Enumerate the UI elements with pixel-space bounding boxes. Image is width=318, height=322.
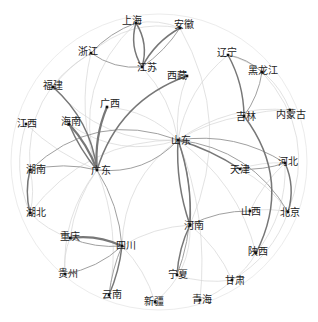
edge-zhejiang-jiangsu (91, 53, 142, 67)
node-dot (141, 66, 144, 69)
node-label: 上海 (122, 14, 142, 26)
node-label: 重庆 (60, 230, 80, 242)
node-jiangsu: 江苏 (137, 61, 157, 73)
node-jiangxi: 江西 (17, 118, 37, 129)
node-dot (135, 22, 138, 25)
node-dot (249, 210, 252, 213)
edge-zhejiang-guangdong (85, 53, 97, 170)
edge-sichuan-xinjiang (122, 246, 155, 302)
node-dot (108, 294, 111, 297)
edge-guangdong-yunnan (97, 170, 113, 295)
edge-guangdong-chongqing (70, 170, 97, 238)
edge-heilongjiang-beijing (262, 72, 299, 212)
edge-fujian-shandong (53, 87, 178, 140)
edge-henan-gansu (190, 225, 232, 280)
node-xizang: 西藏 (167, 70, 188, 81)
node-hainan: 海南 (61, 115, 81, 127)
node-dot (177, 139, 180, 142)
node-hunan: 湖南 (26, 163, 46, 175)
node-chongqing: 重庆 (60, 230, 80, 242)
node-dot (243, 115, 246, 118)
node-dot (284, 162, 287, 165)
node-label: 江苏 (137, 61, 157, 73)
edge-neimenggu-shandong (178, 109, 290, 140)
node-label: 河北 (278, 156, 298, 167)
edge-guangdong-sichuan (97, 170, 122, 246)
network-graph: 上海安徽浙江江苏辽宁黑龙江西藏福建广西吉林内蒙古海南江西山东湖南广东天津河北湖北… (0, 0, 318, 322)
node-label: 北京 (280, 206, 300, 218)
node-label: 山东 (171, 134, 191, 146)
edge-shanghai-jiangsu (134, 23, 142, 67)
node-guizhou: 贵州 (58, 267, 78, 279)
node-label: 广东 (91, 164, 111, 176)
node-dot (106, 106, 109, 109)
edge-sichuan-shandong (122, 140, 178, 246)
node-dot (186, 75, 189, 78)
node-dot (121, 245, 124, 248)
node-dot (189, 224, 192, 227)
node-label: 广西 (100, 98, 120, 109)
node-sichuan: 四川 (116, 240, 136, 251)
node-liaoning: 辽宁 (217, 46, 237, 58)
node-xinjiang: 新疆 (144, 295, 164, 307)
node-label: 河南 (184, 219, 204, 231)
node-shandong: 山东 (171, 134, 191, 146)
edge-yunnan-sichuan (109, 246, 122, 295)
node-dot (255, 252, 258, 255)
edge-zhejiang-anhui (91, 26, 180, 53)
node-label: 浙江 (78, 46, 98, 57)
node-heilongjiang: 黑龙江 (248, 64, 278, 76)
nodes-layer: 上海安徽浙江江苏辽宁黑龙江西藏福建广西吉林内蒙古海南江西山东湖南广东天津河北湖北… (17, 14, 306, 307)
node-qinghai: 青海 (192, 293, 212, 305)
node-dot (25, 123, 28, 126)
background-ring (11, 14, 307, 310)
node-label: 安徽 (174, 18, 194, 30)
edge-yunnan-sichuan (109, 246, 122, 295)
node-shanxi: 山西 (241, 206, 261, 217)
edge-liaoning-neimenggu (228, 55, 290, 110)
node-dot (199, 299, 202, 302)
node-dot (68, 123, 71, 126)
node-label: 青海 (192, 293, 212, 305)
edge-hebei-beijing (285, 163, 291, 212)
node-dot (90, 52, 93, 55)
node-anhui: 安徽 (174, 18, 194, 30)
node-guangxi: 广西 (100, 98, 120, 109)
node-label: 西藏 (167, 70, 187, 81)
edge-jiangsu-shanghai (136, 23, 144, 67)
node-dot (261, 71, 264, 74)
node-neimenggu: 内蒙古 (276, 108, 306, 120)
node-tianjin: 天津 (230, 164, 250, 175)
node-label: 吉林 (236, 110, 256, 122)
node-dot (227, 54, 230, 57)
node-label: 四川 (116, 240, 136, 251)
node-dot (64, 273, 67, 276)
edge-xizang-guangdong (97, 76, 187, 170)
node-fujian: 福建 (43, 79, 63, 91)
edge-guangdong-guizhou (65, 170, 97, 274)
edge-hebei-shanxi (250, 163, 285, 211)
node-dot (69, 237, 72, 240)
edge-xizang-shandong (177, 76, 187, 140)
edge-guangxi-guangdong (96, 107, 107, 170)
node-guangdong: 广东 (91, 164, 111, 176)
node-label: 陕西 (248, 245, 268, 257)
node-hubei: 湖北 (26, 207, 46, 218)
node-dot (239, 168, 242, 171)
edges-layer (20, 22, 299, 302)
node-dot (52, 86, 55, 89)
node-dot (287, 211, 290, 214)
node-jilin: 吉林 (236, 110, 256, 122)
node-label: 贵州 (58, 267, 78, 279)
node-dot (29, 212, 32, 215)
edge-shandong-hebei (178, 138, 285, 163)
node-label: 甘肃 (225, 274, 245, 286)
edge-fujian-guangdong (53, 87, 97, 170)
node-label: 云南 (102, 288, 122, 300)
node-dot (176, 274, 179, 277)
node-gansu: 甘肃 (225, 274, 245, 286)
node-dot (96, 169, 99, 172)
edge-zhejiang-hunan (29, 53, 91, 170)
node-zhejiang: 浙江 (78, 46, 98, 57)
node-dot (231, 279, 234, 282)
